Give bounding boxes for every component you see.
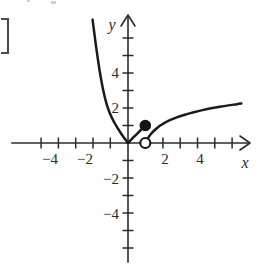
open-point-marker	[140, 138, 150, 148]
closed-point-marker	[140, 120, 150, 130]
coordinate-plane-plot: −4 −2 2 4 4 2 −2 −4 x y	[0, 0, 263, 270]
y-tick-label-4: 4	[112, 65, 120, 81]
scan-smudge	[27, 0, 56, 4]
y-axis-label: y	[106, 16, 116, 34]
y-tick-label-neg4: −4	[103, 206, 119, 222]
graph-figure: −4 −2 2 4 4 2 −2 −4 x y	[0, 0, 263, 270]
curve-right-branch	[146, 103, 241, 142]
y-tick-label-2: 2	[112, 100, 120, 116]
left-bracket-annotation	[2, 19, 8, 53]
x-tick-labels: −4 −2 2 4	[42, 151, 204, 167]
x-tick-label-neg4: −4	[42, 151, 58, 167]
x-tick-label-neg2: −2	[77, 151, 93, 167]
x-tick-label-2: 2	[161, 151, 169, 167]
x-axis-label: x	[240, 154, 248, 171]
y-tick-label-neg2: −2	[103, 171, 119, 187]
x-tick-label-4: 4	[196, 151, 204, 167]
